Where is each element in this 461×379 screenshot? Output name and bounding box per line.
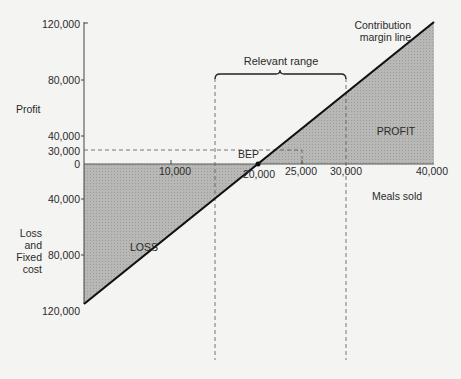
contribution-margin-label: Contribution xyxy=(354,19,411,31)
y-tick-label: 40,000 xyxy=(48,130,80,142)
bep-label: BEP xyxy=(238,148,259,160)
x-tick-label: 10,000 xyxy=(159,165,191,177)
profit-volume-chart: Relevant range 120,000 80,000 40,000 30,… xyxy=(0,0,461,379)
x-tick-label: 20,000 xyxy=(243,168,275,180)
contribution-margin-label: margin line xyxy=(360,31,412,43)
y-tick-label: 120,000 xyxy=(42,305,80,317)
y-tick-label: 0 xyxy=(74,158,80,170)
y-axis-label-loss: Loss xyxy=(20,227,42,239)
y-tick-label: 120,000 xyxy=(42,18,80,30)
profit-region-label: PROFIT xyxy=(377,125,416,137)
relevant-range-brace xyxy=(215,70,346,79)
y-tick-label: 80,000 xyxy=(48,74,80,86)
y-tick-label: 80,000 xyxy=(48,249,80,261)
y-axis-label-loss: and xyxy=(24,239,42,251)
y-tick-label: 30,000 xyxy=(48,145,80,157)
x-tick-label: 30,000 xyxy=(330,165,362,177)
y-axis-label-loss: cost xyxy=(23,263,42,275)
x-tick-label: 40,000 xyxy=(416,165,448,177)
y-axis-label-profit: Profit xyxy=(16,103,41,115)
relevant-range-label: Relevant range xyxy=(244,55,319,67)
bep-point xyxy=(256,162,261,167)
y-axis-label-loss: Fixed xyxy=(16,251,42,263)
y-tick-label: 40,000 xyxy=(48,193,80,205)
x-axis-label: Meals sold xyxy=(372,190,422,202)
x-tick-label: 25,000 xyxy=(285,165,317,177)
loss-region-label: LOSS xyxy=(130,241,158,253)
